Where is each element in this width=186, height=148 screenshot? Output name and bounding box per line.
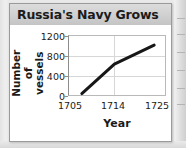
- y-tick-mark-0: [64, 96, 68, 97]
- plot-area: [68, 35, 166, 96]
- page-right-edge-marks: [174, 0, 186, 148]
- y-tick-label-400: 400: [38, 72, 65, 82]
- y-tick-label-800: 800: [38, 52, 65, 62]
- y-tick-label-1200: 1200: [38, 32, 65, 42]
- x-tick-label-1714: 1714: [93, 100, 133, 111]
- page-left-edge-shading: [0, 0, 9, 148]
- x-axis-title: Year: [68, 117, 166, 130]
- chart-card: Russia's Navy Grows Number of vessels 12…: [9, 3, 172, 142]
- x-tick-label-1725: 1725: [137, 100, 177, 111]
- y-axis-tick-labels: 1200 800 400 0: [38, 32, 65, 98]
- y-axis-title-wrapper: Number of vessels: [14, 26, 40, 110]
- x-tick-label-1705: 1705: [50, 100, 90, 111]
- page-background: Russia's Navy Grows Number of vessels 12…: [0, 0, 186, 148]
- series-line-number-of-vessels: [69, 36, 167, 97]
- page-title: Russia's Navy Grows: [17, 7, 159, 22]
- chart-title-bar: Russia's Navy Grows: [10, 4, 171, 26]
- chart-body: Number of vessels 1200 800 400 0: [10, 26, 171, 141]
- x-axis-tick-labels: 1705 1714 1725: [50, 100, 170, 114]
- page-bottom-edge-shading: [0, 141, 186, 148]
